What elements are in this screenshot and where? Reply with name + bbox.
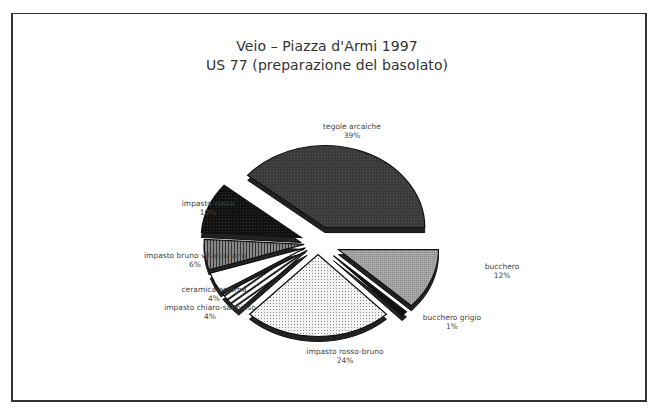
slice-label-name: impasto rosso bbox=[182, 199, 234, 208]
slice-label-percent: 39% bbox=[323, 131, 381, 140]
slice-label-percent: 4% bbox=[164, 312, 256, 321]
slice-label-name: tegole arcaiche bbox=[323, 122, 381, 131]
slice-label-name: impasto chiaro-sabbioso bbox=[164, 303, 256, 312]
slice-label-percent: 10% bbox=[182, 208, 234, 217]
slice-label: bucchero12% bbox=[485, 262, 520, 280]
slice-label: tegole arcaiche39% bbox=[323, 122, 381, 140]
slice-label: bucchero grigio1% bbox=[423, 313, 481, 331]
slice-label-name: bucchero bbox=[485, 262, 520, 271]
slice-label-name: bucchero grigio bbox=[423, 313, 481, 322]
slice-label-percent: 12% bbox=[485, 271, 520, 280]
slice-label-percent: 24% bbox=[306, 356, 383, 365]
slice-label: impasto rosso-bruno24% bbox=[306, 347, 383, 365]
slice-label-percent: 1% bbox=[423, 322, 481, 331]
pie-slice-tegole-arcaiche bbox=[248, 146, 425, 228]
slice-label-percent: 6% bbox=[144, 260, 246, 269]
slice-label-name: impasto bruno villanoviano bbox=[144, 251, 246, 260]
slice-label: impasto rosso10% bbox=[182, 199, 234, 217]
slice-label-percent: 4% bbox=[181, 294, 246, 303]
slice-label: impasto chiaro-sabbioso4% bbox=[164, 303, 256, 321]
slice-label-name: ceramica acroma bbox=[181, 285, 246, 294]
slice-label: impasto bruno villanoviano6% bbox=[144, 251, 246, 269]
slice-label: ceramica acroma4% bbox=[181, 285, 246, 303]
slice-label-name: impasto rosso-bruno bbox=[306, 347, 383, 356]
